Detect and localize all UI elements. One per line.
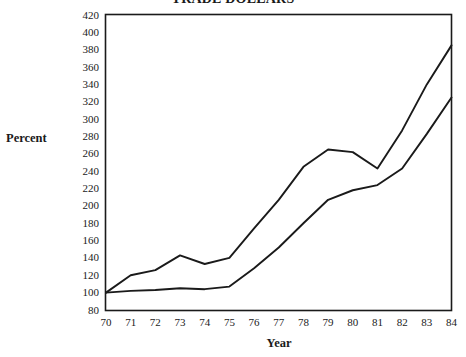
chart-figure: TRADE DOLLARS Percent Year 4204003803603… (0, 0, 466, 357)
data-line-lower (106, 97, 452, 292)
data-line-upper (106, 45, 452, 292)
plot-frame (106, 15, 452, 311)
plot-area (0, 0, 466, 357)
